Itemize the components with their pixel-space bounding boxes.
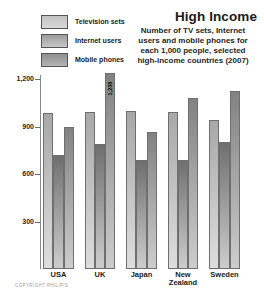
bar-usa-mobile-phones (64, 127, 74, 269)
bar-uk-internet-users (95, 144, 105, 269)
category-label-uk: UK (79, 271, 122, 279)
bar-new-zealand-mobile-phones (188, 98, 198, 269)
category-label-usa: USA (37, 271, 80, 279)
atlas-chart-graphic: Television setsInternet usersMobile phon… (0, 0, 264, 296)
bar-new-zealand-television-sets (168, 112, 178, 269)
category-label-japan: Japan (120, 271, 163, 279)
bar-new-zealand-internet-users (178, 160, 188, 269)
bar-value-label: 1,238 (106, 75, 115, 101)
bar-sweden-internet-users (219, 142, 229, 269)
y-axis-line (40, 75, 41, 269)
bar-uk-mobile-phones (105, 73, 115, 269)
y-tick-label: 900 (0, 123, 34, 130)
y-axis-tick (35, 222, 40, 223)
bar-sweden-television-sets (209, 120, 219, 269)
y-tick-label: 1,200 (0, 75, 34, 82)
bar-japan-television-sets (126, 111, 136, 269)
y-tick-label: 300 (0, 218, 34, 225)
bar-japan-internet-users (136, 160, 146, 269)
category-label-sweden: Sweden (203, 271, 246, 279)
category-label-new-zealand: New Zealand (162, 271, 205, 286)
y-axis-tick (35, 127, 40, 128)
y-axis-tick (35, 79, 40, 80)
bar-usa-television-sets (43, 113, 53, 269)
y-tick-label: 600 (0, 170, 34, 177)
bar-sweden-mobile-phones (230, 91, 240, 269)
bar-chart-plot-area: 3006009001,200USAUKJapanNew ZealandSwede… (0, 0, 264, 296)
copyright-text: COPYRIGHT PHILIP'S (15, 283, 68, 288)
bar-usa-internet-users (53, 155, 63, 269)
y-axis-tick (35, 174, 40, 175)
bar-uk-television-sets (85, 112, 95, 269)
bar-japan-mobile-phones (147, 132, 157, 269)
